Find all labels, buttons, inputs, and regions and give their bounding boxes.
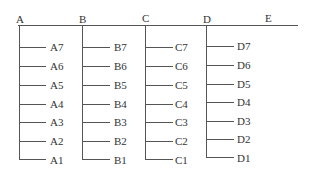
label-c1: C1 [175,155,188,166]
top-label-c: C [142,13,149,24]
label-a1: A1 [50,155,63,166]
branch-c3 [145,122,173,123]
branch-b4 [82,104,110,105]
label-c5: C5 [175,80,188,91]
label-c7: C7 [175,42,188,53]
branch-b2 [82,141,110,142]
label-b7: B7 [114,42,127,53]
label-b1: B1 [114,155,127,166]
label-d7: D7 [237,41,250,52]
branch-c7 [145,47,173,48]
branch-d4 [206,102,234,103]
label-a5: A5 [50,80,63,91]
label-d5: D5 [237,79,250,90]
column-c-trunk [145,25,146,160]
branch-a4 [19,104,46,105]
label-a3: A3 [50,117,63,128]
branch-b7 [82,47,110,48]
label-a2: A2 [50,136,63,147]
branch-d1 [206,157,234,158]
top-label-a: A [16,14,24,25]
branch-d5 [206,84,234,85]
branch-b5 [82,85,110,86]
branch-a3 [19,122,46,123]
top-label-d: D [203,14,211,25]
label-d4: D4 [237,97,250,108]
label-c4: C4 [175,99,188,110]
label-a7: A7 [50,42,63,53]
label-b4: B4 [114,99,127,110]
top-label-b: B [79,14,86,25]
label-d2: D2 [237,134,250,145]
branch-a5 [19,85,46,86]
column-a-trunk [19,25,20,160]
branch-b1 [82,159,110,160]
label-a6: A6 [50,61,63,72]
label-c6: C6 [175,61,188,72]
label-c2: C2 [175,136,188,147]
label-b2: B2 [114,136,127,147]
column-b-trunk [82,25,83,160]
main-axis-line [18,25,298,26]
branch-a7 [19,47,46,48]
branch-a6 [19,66,46,67]
label-a4: A4 [50,99,63,110]
label-c3: C3 [175,117,188,128]
branch-c4 [145,104,173,105]
label-b5: B5 [114,80,127,91]
branch-c2 [145,141,173,142]
label-d3: D3 [237,116,250,127]
branch-d7 [206,46,234,47]
label-d1: D1 [237,153,250,164]
branch-a2 [19,141,46,142]
top-label-e: E [265,13,272,24]
branch-c6 [145,66,173,67]
branch-c5 [145,85,173,86]
branch-d6 [206,65,234,66]
branch-b3 [82,122,110,123]
label-b3: B3 [114,117,127,128]
label-d6: D6 [237,60,250,71]
branch-d2 [206,139,234,140]
label-b6: B6 [114,61,127,72]
branch-b6 [82,66,110,67]
branch-a1 [19,159,46,160]
branch-c1 [145,159,173,160]
branch-d3 [206,121,234,122]
